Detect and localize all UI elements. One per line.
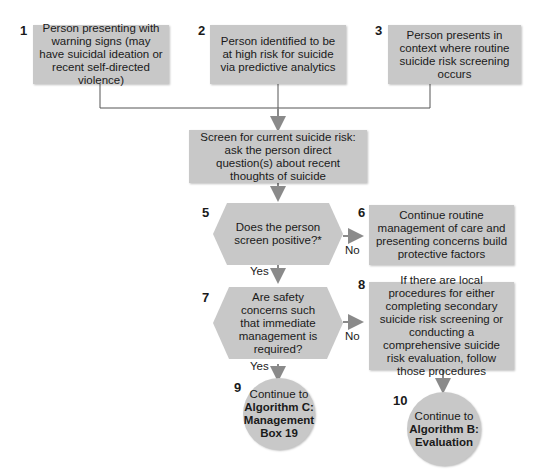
edge-7-yes-label: Yes [250,360,269,372]
box-10-number: 10 [393,393,407,408]
box-8-number: 8 [358,277,365,292]
edge-7-no-label: No [345,330,360,342]
box-10-line3: Evaluation [415,436,473,449]
box-9-algorithm-c-link: Continue to Algorithm C: Management Box … [243,378,315,450]
box-5-screen-positive-decision: Does the person screen positive?* [213,203,343,265]
box-2-predictive-analytics: Person identified to be at high risk for… [210,25,346,84]
box-1-warning-signs: Person presenting with warning signs (ma… [33,25,169,84]
box-5-number: 5 [202,205,209,220]
box-7-text: Are safety concerns such that immediate … [231,291,326,356]
edge-5-yes-label: Yes [250,265,269,277]
box-6-continue-routine: Continue routine management of care and … [369,205,514,265]
box-10-line2: Algorithm B: [409,423,479,436]
box-2-number: 2 [198,23,205,38]
box-6-number: 6 [358,205,365,220]
edge-5-no-label: No [345,244,360,256]
box-3-routine-screening: Person presents in context where routine… [388,25,521,84]
box-9-line4: Box 19 [260,427,298,440]
box-9-line3: Management [244,414,314,427]
box-9-line2: Algorithm C: [244,401,314,414]
box-8-local-procedures: If there are local procedures for either… [369,282,514,370]
box-9-number: 9 [234,380,241,395]
box-10-line1: Continue to [415,410,474,423]
box-4-screen-current-risk: Screen for current suicide risk: ask the… [189,130,367,183]
box-5-text: Does the person screen positive?* [233,221,323,247]
box-1-number: 1 [20,23,27,38]
box-3-number: 3 [375,23,382,38]
box-7-safety-concerns-decision: Are safety concerns such that immediate … [213,287,343,359]
box-7-number: 7 [202,290,209,305]
box-9-line1: Continue to [250,388,309,401]
box-10-algorithm-b-link: Continue to Algorithm B: Evaluation [407,392,481,466]
